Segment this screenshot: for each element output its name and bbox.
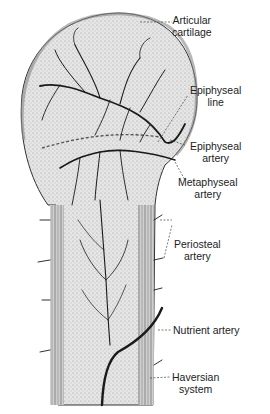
label-line: system [172, 383, 219, 395]
label-periosteal-artery: Periosteal artery [174, 238, 221, 262]
label-line: artery [190, 152, 241, 164]
label-line: Epiphyseal [190, 84, 241, 96]
bone-outline [21, 13, 197, 405]
bone-blood-supply-diagram [0, 0, 270, 414]
label-line: Epiphyseal [190, 140, 241, 152]
label-line: artery [178, 188, 238, 200]
label-line: Articular [172, 14, 212, 26]
label-line: line [190, 96, 241, 108]
label-line: cartilage [172, 26, 212, 38]
label-nutrient-artery: Nutrient artery [173, 324, 240, 336]
label-line: Metaphyseal [178, 176, 238, 188]
label-line: Nutrient artery [173, 324, 240, 336]
label-epiphyseal-artery: Epiphyseal artery [190, 140, 241, 164]
label-line: artery [174, 250, 221, 262]
label-line: Periosteal [174, 238, 221, 250]
label-epiphyseal-line: Epiphyseal line [190, 84, 241, 108]
label-haversian-system: Haversian system [172, 371, 219, 395]
label-line: Haversian [172, 371, 219, 383]
cortex-right [138, 205, 154, 405]
label-articular-cartilage: Articular cartilage [172, 14, 212, 38]
label-metaphyseal-artery: Metaphyseal artery [178, 176, 238, 200]
cortex-left [50, 205, 64, 405]
